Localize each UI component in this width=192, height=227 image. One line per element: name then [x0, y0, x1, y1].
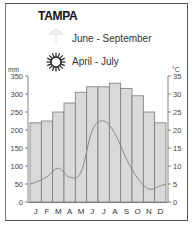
temperature-bar	[53, 112, 64, 202]
left-tick-label: 0	[19, 198, 23, 207]
month-label: J	[34, 207, 38, 216]
temperature-bar	[41, 121, 52, 202]
temperature-bar	[155, 123, 166, 202]
month-label: A	[112, 207, 118, 216]
right-tick-label: 20	[173, 126, 181, 135]
temperature-bar	[121, 89, 132, 202]
left-tick-label: 250	[10, 108, 23, 117]
left-unit-label: mm	[8, 66, 19, 73]
left-tick-label: 200	[10, 126, 23, 135]
left-tick-label: 350	[10, 72, 23, 81]
right-tick-label: 35	[173, 72, 181, 81]
month-label: J	[90, 207, 94, 216]
temperature-bar	[132, 96, 143, 202]
month-label: S	[124, 207, 129, 216]
right-tick-label: 10	[173, 162, 181, 171]
month-label: F	[45, 207, 50, 216]
left-tick-label: 300	[10, 90, 23, 99]
right-tick-label: 5	[173, 180, 177, 189]
month-label: J	[102, 207, 106, 216]
right-tick-label: 30	[173, 90, 181, 99]
month-label: A	[67, 207, 73, 216]
month-label: M	[78, 207, 85, 216]
temperature-bar	[30, 123, 41, 202]
temperature-bar	[64, 103, 75, 202]
left-tick-label: 50	[15, 180, 23, 189]
right-tick-label: 15	[173, 144, 181, 153]
right-tick-label: 25	[173, 108, 181, 117]
month-label: O	[135, 207, 141, 216]
left-tick-label: 100	[10, 162, 23, 171]
month-label: N	[146, 207, 152, 216]
temperature-bar	[98, 87, 109, 202]
temperature-bar	[75, 92, 86, 202]
left-tick-label: 150	[10, 144, 23, 153]
right-unit-label: °C	[172, 66, 180, 73]
climate-chart: 35030025020015010050035302520151050mm°CJ…	[0, 0, 192, 227]
month-label: D	[157, 207, 163, 216]
right-tick-label: 0	[173, 198, 177, 207]
month-label: M	[55, 207, 62, 216]
